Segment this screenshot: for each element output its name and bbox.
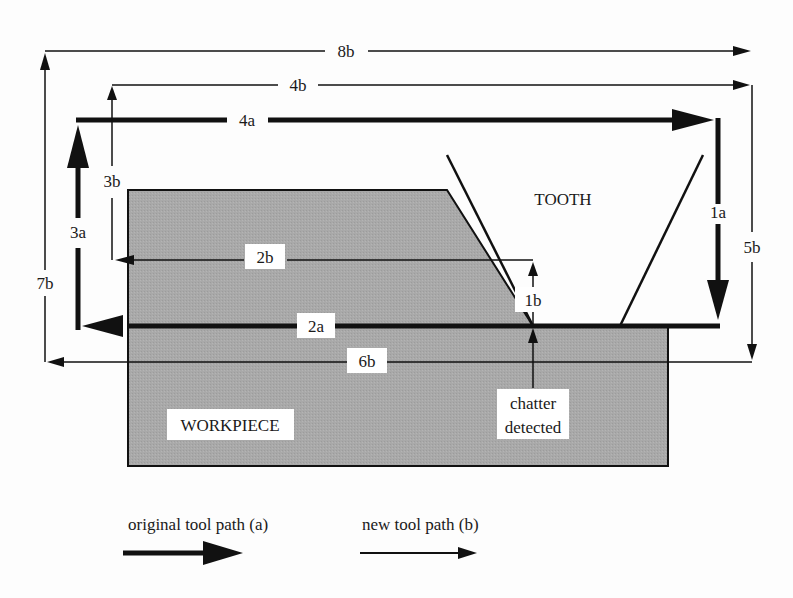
label-8b: 8b (338, 42, 355, 61)
label-4a: 4a (239, 111, 256, 130)
legend-original-label: original tool path (a) (128, 515, 268, 534)
legend-new-label: new tool path (b) (362, 515, 479, 534)
legend-original-arrow (123, 541, 243, 565)
label-2b: 2b (257, 248, 274, 267)
chatter-label-line2: detected (505, 418, 562, 437)
label-6b: 6b (359, 352, 376, 371)
legend-new-arrow (360, 547, 477, 559)
label-4b: 4b (290, 76, 307, 95)
label-2a: 2a (308, 317, 325, 336)
label-1a: 1a (710, 203, 727, 222)
legend: original tool path (a) new tool path (b) (123, 515, 479, 565)
tool-path-diagram: 8b 4b 4a 3b 3a 7b 2b 2a 6b 1b 1a 5b TOOT… (0, 0, 793, 598)
tooth-label: TOOTH (534, 190, 591, 209)
chatter-label-line1: chatter (510, 394, 557, 413)
label-1b: 1b (525, 291, 542, 310)
label-3b: 3b (104, 172, 121, 191)
label-7b: 7b (37, 274, 54, 293)
label-5b: 5b (744, 238, 761, 257)
label-3a: 3a (70, 223, 87, 242)
workpiece-label: WORKPIECE (180, 416, 279, 435)
